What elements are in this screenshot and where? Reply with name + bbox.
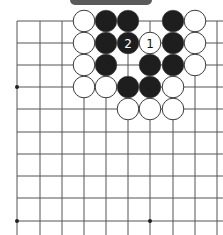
white-stone	[73, 32, 95, 54]
white-stone	[184, 54, 206, 76]
black-stone	[117, 10, 139, 32]
white-stone	[117, 98, 139, 120]
white-stone-1: 1	[139, 32, 161, 54]
star-point	[148, 219, 152, 223]
white-stone	[184, 10, 206, 32]
black-stone	[162, 54, 184, 76]
black-stone	[95, 54, 117, 76]
black-stone	[95, 10, 117, 32]
white-stone	[95, 76, 117, 98]
move-number-label: 2	[124, 37, 132, 51]
black-stone	[139, 76, 161, 98]
white-stone	[184, 32, 206, 54]
white-stone	[73, 54, 95, 76]
black-stone	[162, 32, 184, 54]
black-stone	[95, 32, 117, 54]
white-stone	[73, 10, 95, 32]
stones: 21	[73, 10, 206, 120]
white-stone	[139, 98, 161, 120]
black-stone-2: 2	[117, 32, 139, 54]
black-stone	[117, 76, 139, 98]
go-board: 21	[0, 0, 223, 235]
move-number-label: 1	[146, 37, 154, 51]
black-stone	[162, 10, 184, 32]
white-stone	[162, 76, 184, 98]
star-point	[15, 219, 19, 223]
white-stone	[73, 76, 95, 98]
black-stone	[139, 54, 161, 76]
white-stone	[162, 98, 184, 120]
star-point	[15, 85, 19, 89]
